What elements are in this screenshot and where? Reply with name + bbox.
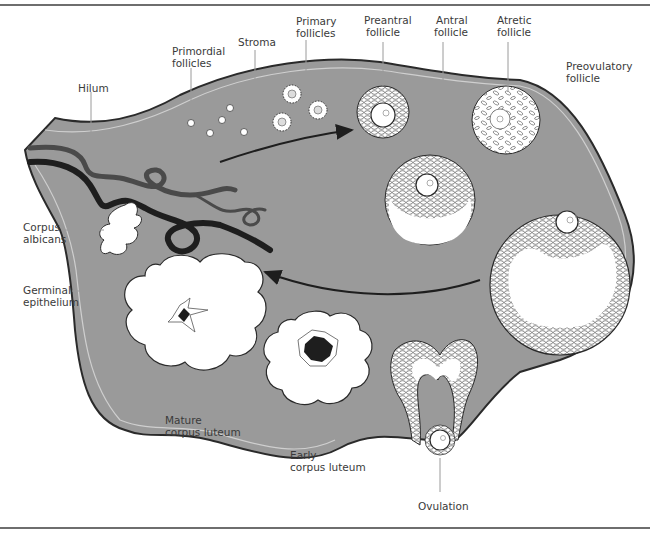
ovulated-oocyte [425, 425, 455, 455]
label-stroma: Stroma [238, 36, 276, 48]
label-preantral-follicle-1: Preantral [364, 14, 412, 26]
label-primordial-follicles-1: Primordial [172, 45, 225, 57]
antral-follicle [385, 155, 475, 245]
label-early-corpus-luteum-2: corpus luteum [290, 461, 366, 473]
label-atretic-follicle-1: Atretic [497, 14, 532, 26]
label-antral-follicle-1: Antral [436, 14, 468, 26]
label-mature-corpus-luteum-1: Mature [165, 414, 202, 426]
preantral-follicle [357, 86, 409, 138]
label-early-corpus-luteum-1: Early [290, 449, 317, 461]
label-ovulation: Ovulation [418, 500, 469, 512]
label-preovulatory-follicle-1: Preovulatory [566, 60, 632, 72]
label-atretic-follicle-2: follicle [497, 26, 531, 38]
label-hilum: Hilum [78, 82, 109, 94]
label-germinal-epithelium-2: epithelium [23, 296, 79, 308]
label-corpus-albicans-1: Corpus [23, 221, 60, 233]
label-mature-corpus-luteum-2: corpus luteum [165, 426, 241, 438]
label-primary-follicles-1: Primary [296, 15, 337, 27]
label-primary-follicles-2: follicles [296, 27, 336, 39]
label-preantral-follicle-2: follicle [366, 26, 400, 38]
atretic-follicle [472, 86, 540, 154]
label-corpus-albicans-2: albicans [23, 233, 66, 245]
label-preovulatory-follicle-2: follicle [566, 72, 600, 84]
label-primordial-follicles-2: follicles [172, 57, 212, 69]
label-germinal-epithelium-1: Germinal [23, 284, 71, 296]
ovary-diagram: Hilum Primordial follicles Stroma Primar… [0, 0, 658, 535]
label-antral-follicle-2: follicle [434, 26, 468, 38]
